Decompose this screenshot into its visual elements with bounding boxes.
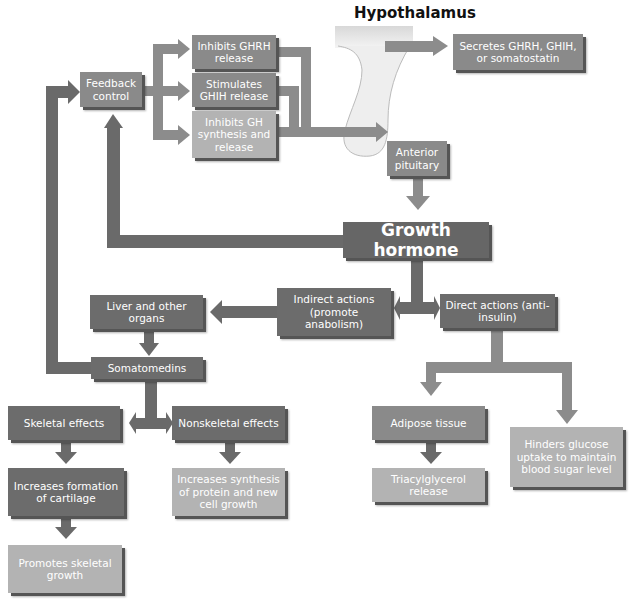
inhibits-gh-synthesis-box: Inhibits GH synthesis and release xyxy=(192,111,276,158)
somatomedins-box: Somatomedins xyxy=(91,357,203,379)
liver-box: Liver and other organs xyxy=(90,295,203,329)
skeletal-growth-box: Promotes skeletal growth xyxy=(8,545,122,593)
protein-synthesis-box: Increases synthesis of protein and new c… xyxy=(172,468,285,516)
anterior-pituitary-box: Anterior pituitary xyxy=(387,141,447,176)
secretes-hormones-box: Secretes GHRH, GHIH, or somatostatin xyxy=(453,34,583,70)
hypothalamus-title: Hypothalamus xyxy=(354,4,476,22)
skeletal-effects-box: Skeletal effects xyxy=(8,406,120,440)
indirect-actions-box: Indirect actions (promote anabolism) xyxy=(277,288,391,336)
direct-actions-box: Direct actions (anti-insulin) xyxy=(440,294,555,328)
nonskeletal-effects-box: Nonskeletal effects xyxy=(172,406,285,440)
inhibits-ghrh-box: Inhibits GHRH release xyxy=(192,35,276,69)
stimulates-ghih-box: Stimulates GHIH release xyxy=(192,73,276,107)
adipose-tissue-box: Adipose tissue xyxy=(372,406,485,440)
feedback-control-box: Feedback control xyxy=(80,72,142,107)
hinders-glucose-box: Hinders glucose uptake to maintain blood… xyxy=(510,427,623,487)
cartilage-formation-box: Increases formation of cartilage xyxy=(8,468,124,516)
growth-hormone-box: Growth hormone xyxy=(343,222,489,258)
triacylglycerol-box: Triacylglycerol release xyxy=(372,468,485,502)
